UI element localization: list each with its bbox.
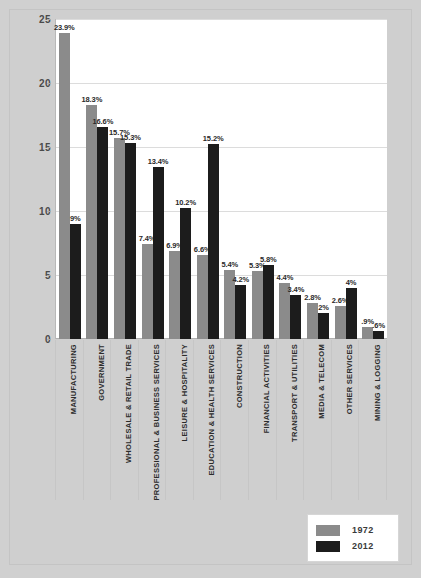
bar: 23.9% — [59, 33, 70, 339]
bar: 6.9% — [169, 251, 180, 339]
y-axis-tick-mark — [47, 19, 51, 20]
bar: 3.4% — [290, 295, 301, 339]
x-axis-category-labels: MANUFACTURINGGOVERNMENTWHOLESALE & RETAI… — [55, 340, 387, 500]
x-axis-category-label: CONSTRUCTION — [235, 344, 244, 408]
bar-value-label: 15.2% — [203, 134, 224, 143]
bar: 16.6% — [97, 127, 108, 339]
x-axis-category-cell: MEDIA & TELECOM — [304, 340, 332, 500]
x-axis-category-label: FINANCIAL ACTIVITIES — [262, 344, 271, 433]
x-axis-category-cell: WHOLESALE & RETAIL TRADE — [111, 340, 139, 500]
x-axis-category-cell: LEISURE & HOSPITALITY — [166, 340, 194, 500]
x-axis-category-cell: FINANCIAL ACTIVITIES — [249, 340, 277, 500]
bar-value-label: 16.6% — [92, 117, 113, 126]
bar-group: 6.9%10.2% — [166, 19, 194, 339]
bar-group: 4.4%3.4% — [277, 19, 305, 339]
bar: 15.2% — [208, 144, 219, 339]
legend-swatch — [316, 525, 340, 536]
bar-value-label: 3.4% — [288, 285, 305, 294]
bar-value-label: 23.9% — [54, 23, 75, 32]
x-axis-category-label: EDUCATION & HEALTH SERVICES — [207, 344, 216, 475]
bar-group: 6.6%15.2% — [194, 19, 222, 339]
bar-group: 7.4%13.4% — [139, 19, 167, 339]
bar-group: 15.7%15.3% — [111, 19, 139, 339]
x-axis-category-label: TRANSPORT & UTILITIES — [290, 344, 299, 442]
chart-figure: 0510152025 23.9%9%18.3%16.6%15.7%15.3%7.… — [0, 0, 421, 578]
bar: 4% — [346, 288, 357, 339]
bar: 7.4% — [142, 244, 153, 339]
bar: 2.6% — [335, 306, 346, 339]
y-axis-tick-mark — [47, 275, 51, 276]
bar-value-label: 5.8% — [260, 255, 277, 264]
bar: .6% — [373, 331, 384, 339]
plot-area: 23.9%9%18.3%16.6%15.7%15.3%7.4%13.4%6.9%… — [55, 19, 387, 339]
x-axis-category-label: OTHER SERVICES — [345, 344, 354, 414]
bar-value-label: 5.4% — [221, 260, 238, 269]
y-axis-tick-mark — [47, 211, 51, 212]
bar: 5.8% — [263, 265, 274, 339]
bar: 18.3% — [86, 105, 97, 339]
bar: 5.3% — [252, 271, 263, 339]
bar-value-label: 13.4% — [148, 157, 169, 166]
bar: 10.2% — [180, 208, 191, 339]
bar-value-label: .6% — [372, 321, 385, 330]
x-axis-category-cell: MANUFACTURING — [55, 340, 84, 500]
bar-value-label: 4.2% — [232, 275, 249, 284]
bar: 9% — [70, 224, 81, 339]
x-axis-category-label: GOVERNMENT — [97, 344, 106, 401]
x-axis-category-cell: PROFESSIONAL & BUSINESS SERVICES — [139, 340, 167, 500]
bar: 6.6% — [197, 255, 208, 339]
bar-value-label: 18.3% — [81, 95, 102, 104]
x-axis-category-label: MINING & LOGGING — [373, 344, 382, 421]
chart-canvas: 0510152025 23.9%9%18.3%16.6%15.7%15.3%7.… — [9, 9, 412, 565]
bar-groups: 23.9%9%18.3%16.6%15.7%15.3%7.4%13.4%6.9%… — [56, 19, 387, 339]
x-axis-category-cell: MINING & LOGGING — [359, 340, 387, 500]
bar: 15.3% — [125, 143, 136, 339]
bar-group: 2.6%4% — [332, 19, 360, 339]
bar-group: 5.4%4.2% — [221, 19, 249, 339]
x-axis-category-label: LEISURE & HOSPITALITY — [180, 344, 189, 441]
x-axis-category-label: MEDIA & TELECOM — [317, 344, 326, 419]
bar-group: 23.9%9% — [56, 19, 84, 339]
legend-row: 2012 — [316, 538, 390, 554]
bar-value-label: 9% — [70, 214, 81, 223]
legend-row: 1972 — [316, 522, 390, 538]
x-axis-category-label: WHOLESALE & RETAIL TRADE — [124, 344, 133, 463]
legend-label: 1972 — [352, 525, 374, 535]
chart-legend: 19722012 — [307, 514, 399, 562]
x-axis-category-cell: EDUCATION & HEALTH SERVICES — [194, 340, 222, 500]
y-axis-tick-mark — [47, 83, 51, 84]
x-axis-category-label: MANUFACTURING — [69, 344, 78, 414]
bar-value-label: 4.4% — [277, 273, 294, 282]
x-axis-category-label: PROFESSIONAL & BUSINESS SERVICES — [152, 344, 161, 500]
legend-label: 2012 — [352, 541, 374, 551]
y-axis: 0510152025 — [19, 19, 51, 339]
legend-swatch — [316, 541, 340, 552]
bar-value-label: 2.8% — [304, 293, 321, 302]
x-axis-category-cell: OTHER SERVICES — [332, 340, 360, 500]
y-axis-tick-mark — [47, 147, 51, 148]
bar-value-label: 4% — [346, 278, 357, 287]
bar: 2.8% — [307, 303, 318, 339]
bar-group: 2.8%2% — [304, 19, 332, 339]
bar-value-label: 15.3% — [120, 133, 141, 142]
bar: 2% — [318, 313, 329, 339]
bar-value-label: 2% — [318, 303, 329, 312]
bar-value-label: 10.2% — [175, 198, 196, 207]
bar-group: 18.3%16.6% — [84, 19, 112, 339]
bar: 4.2% — [235, 285, 246, 339]
y-axis-tick-mark — [47, 339, 51, 340]
x-axis-category-cell: GOVERNMENT — [84, 340, 112, 500]
bar: 15.7% — [114, 138, 125, 339]
bar-group: 5.3%5.8% — [249, 19, 277, 339]
x-axis-category-cell: CONSTRUCTION — [221, 340, 249, 500]
x-axis-category-cell: TRANSPORT & UTILITIES — [277, 340, 305, 500]
bar-group: .9%.6% — [359, 19, 387, 339]
bar: 13.4% — [153, 167, 164, 339]
